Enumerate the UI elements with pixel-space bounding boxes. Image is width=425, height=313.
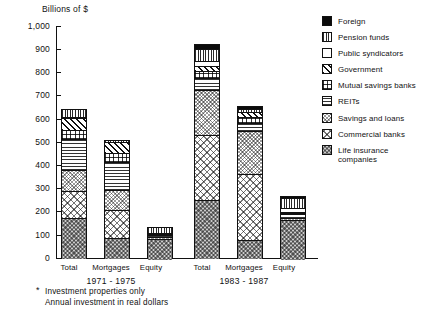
legend-swatch-icon	[322, 145, 332, 155]
y-tick-label-800: 800	[10, 67, 50, 77]
bar-segment-life-insurance-companies	[148, 240, 172, 259]
bar-segment-pension-funds	[62, 110, 86, 118]
legend-swatch-icon	[322, 113, 332, 123]
legend-label: Commercial banks	[338, 129, 405, 139]
bar-segment-life-insurance-companies	[238, 241, 262, 259]
legend-swatch-icon	[322, 96, 332, 106]
bar-segment-mutual-savings-banks	[62, 131, 86, 141]
bar-segment-savings-and-loans	[195, 91, 219, 136]
bar-segment-government	[105, 143, 129, 154]
bar-segment-reits	[238, 124, 262, 132]
y-tick-label-100: 100	[10, 230, 50, 240]
bar-segment-reits	[105, 163, 129, 191]
bar-segment-pension-funds	[195, 50, 219, 62]
bar-segment-life-insurance-companies	[62, 219, 86, 259]
legend-item-public-syndicators[interactable]: Public syndicators	[322, 48, 416, 59]
bar-segment-commercial-banks	[195, 136, 219, 201]
legend-swatch-icon	[322, 48, 332, 58]
footnote-asterisk: *	[36, 285, 40, 296]
legend-label: Government	[338, 64, 382, 74]
x-label-equity-g1: Equity	[134, 263, 168, 272]
bar-segment-government	[62, 119, 86, 131]
bar-segment-savings-and-loans	[62, 171, 86, 192]
legend-swatch-icon	[322, 80, 332, 90]
bar-segment-life-insurance-companies	[105, 239, 129, 259]
legend-swatch-icon	[322, 64, 332, 74]
legend-label: Foreign	[338, 16, 365, 26]
bar-segment-savings-and-loans	[105, 191, 129, 211]
x-label-mortgages-g2: Mortgages	[222, 263, 266, 272]
legend-swatch-icon	[322, 129, 332, 139]
bar-segment-pension-funds	[281, 199, 305, 209]
x-axis-line	[56, 258, 318, 259]
footnote-line-1: Investment properties only	[45, 286, 168, 297]
legend-label: Savings and loans	[338, 113, 404, 123]
y-tick-label-500: 500	[10, 137, 50, 147]
chart-footnote: * Investment properties only Annual inve…	[36, 286, 168, 308]
y-tick-label-300: 300	[10, 183, 50, 193]
legend-item-pension-funds[interactable]: Pension funds	[322, 32, 416, 43]
bar-equity-1983-1987	[280, 196, 306, 258]
legend-item-commercial-banks[interactable]: Commercial banks	[322, 129, 416, 140]
bar-total-1983-1987	[194, 44, 220, 258]
bar-segment-reits	[195, 79, 219, 91]
group-label-1983-1987: 1983 - 1987	[191, 276, 297, 286]
legend-item-mutual-savings-banks[interactable]: Mutual savings banks	[322, 80, 416, 91]
legend-label: Life insurance companies	[338, 145, 389, 165]
plot-area	[56, 26, 318, 258]
y-tick-label-0: 0	[10, 253, 50, 263]
y-tick-label-600: 600	[10, 114, 50, 124]
bar-segment-mutual-savings-banks	[195, 72, 219, 79]
bar-segment-life-insurance-companies	[281, 221, 305, 261]
bar-mortgages-1971-1975	[104, 140, 130, 258]
legend-item-life-insurance-companies[interactable]: Life insurance companies	[322, 145, 416, 165]
x-label-mortgages-g1: Mortgages	[89, 263, 133, 272]
legend-label: Pension funds	[338, 32, 389, 42]
chart-axis-title: Billions of $	[42, 4, 88, 14]
legend-item-foreign[interactable]: Foreign	[322, 16, 416, 27]
bar-segment-commercial-banks	[105, 211, 129, 238]
legend-label: Mutual savings banks	[338, 80, 416, 90]
bar-segment-commercial-banks	[62, 192, 86, 219]
legend-item-government[interactable]: Government	[322, 64, 416, 75]
legend-item-savings-and-loans[interactable]: Savings and loans	[322, 113, 416, 124]
y-tick-label-400: 400	[10, 160, 50, 170]
bar-segment-savings-and-loans	[238, 132, 262, 175]
y-tick-label-700: 700	[10, 90, 50, 100]
y-tick-label-200: 200	[10, 206, 50, 216]
legend-swatch-icon	[322, 16, 332, 26]
x-label-total-g1: Total	[53, 263, 85, 272]
bar-segment-mutual-savings-banks	[105, 154, 129, 164]
x-label-total-g2: Total	[186, 263, 218, 272]
footnote-line-2: Annual investment in real dollars	[45, 297, 168, 308]
bar-total-1971-1975	[61, 109, 87, 258]
bar-equity-1971-1975	[147, 227, 173, 258]
legend-label: Public syndicators	[338, 48, 403, 58]
chart-legend: ForeignPension fundsPublic syndicatorsGo…	[322, 16, 416, 170]
bar-segment-reits	[62, 140, 86, 170]
legend-item-reits[interactable]: REITs	[322, 96, 416, 107]
legend-swatch-icon	[322, 32, 332, 42]
bar-mortgages-1983-1987	[237, 106, 263, 258]
group-label-1971-1975: 1971 - 1975	[58, 276, 164, 286]
bar-segment-life-insurance-companies	[195, 201, 219, 259]
x-label-equity-g2: Equity	[267, 263, 301, 272]
y-tick-label-900: 900	[10, 44, 50, 54]
y-tick-label-1000: 1,000	[10, 21, 50, 31]
legend-label: REITs	[338, 96, 360, 106]
bar-segment-commercial-banks	[238, 175, 262, 240]
